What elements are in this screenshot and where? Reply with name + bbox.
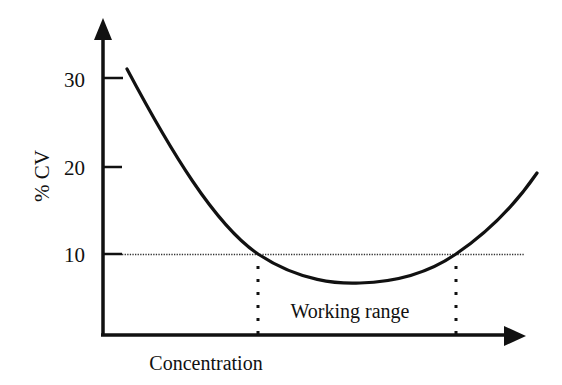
y-axis-arrow-icon [94, 18, 112, 40]
x-axis-label: Concentration [149, 352, 262, 374]
x-axis-arrow-icon [504, 326, 526, 346]
y-tick-label-20: 20 [64, 156, 85, 180]
cv-curve [127, 69, 537, 283]
working-range-annotation: Working range [291, 300, 410, 323]
y-tick-label-30: 30 [64, 68, 85, 92]
chart-canvas: 30 20 10 % CV Concentration Working rang… [0, 0, 562, 385]
y-tick-label-10: 10 [64, 243, 85, 267]
y-axis-label: % CV [30, 150, 54, 202]
